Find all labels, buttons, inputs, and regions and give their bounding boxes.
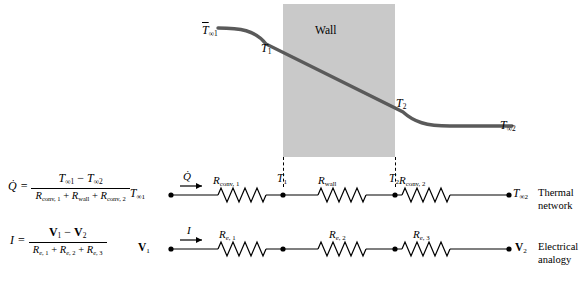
label-t-inf-1: T∞1 (202, 23, 218, 38)
electrical-node-right: V2 (515, 241, 527, 255)
thermal-resistor-1-label: Rconv, 1 (213, 174, 239, 187)
electrical-node-left: V1 (138, 241, 150, 255)
electrical-equation-denominator: Re, 1 + Re, 2 + Re, 3 (29, 243, 107, 256)
thermal-equation: Q̇ = T∞1 − T∞2 Rconv, 1 + Rwall + Rconv,… (8, 172, 130, 202)
electrical-resistor-1-label: Re, 1 (219, 228, 236, 241)
thermal-equation-numerator: T∞1 − T∞2 (31, 172, 129, 189)
electrical-resistor-2-label: Re, 2 (329, 228, 346, 241)
electrical-network-title-line1: Electrical (538, 241, 578, 252)
thermal-resistor-3-label: Rconv, 2 (399, 174, 425, 187)
thermal-node-t2: T2 (389, 172, 399, 186)
thermal-network-title-line2: network (538, 200, 572, 211)
electrical-network-title-line2: analogy (538, 254, 571, 265)
thermal-equation-denominator: Rconv, 1 + Rwall + Rconv, 2 (31, 189, 129, 202)
thermal-node-right: T∞2 (513, 187, 528, 201)
electrical-equation: I = V1 − V2 Re, 1 + Re, 2 + Re, 3 (10, 226, 107, 256)
electrical-equation-numerator: V1 − V2 (29, 226, 107, 243)
thermal-resistor-2-label: Rwall (318, 174, 336, 187)
electrical-equation-lhs: I (10, 233, 14, 248)
thermal-flow-label: Q̇ (183, 170, 191, 182)
label-t1: T1 (261, 41, 271, 56)
label-t2: T2 (396, 96, 406, 111)
thermal-network-title: Thermal network (538, 186, 574, 212)
label-t-inf-2: T∞2 (500, 118, 516, 133)
electrical-network-title: Electrical analogy (538, 240, 578, 266)
thermal-node-left: T∞1 (130, 187, 145, 201)
electrical-resistor-3-label: Re, 3 (413, 228, 430, 241)
thermal-equation-lhs: Q̇ (8, 179, 17, 194)
thermal-node-t1: T1 (277, 172, 287, 186)
electrical-flow-label: I (187, 224, 191, 236)
temperature-profile-curve (200, 0, 584, 160)
thermal-network-title-line1: Thermal (538, 187, 574, 198)
